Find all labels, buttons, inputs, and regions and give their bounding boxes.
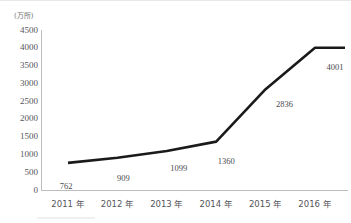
data-value-label: 1360 xyxy=(218,156,235,166)
caption-artifact xyxy=(37,217,95,219)
data-value-label: 909 xyxy=(117,173,130,183)
data-value-label: 4001 xyxy=(327,62,344,72)
chart-figure: (万所) 05001000150020002500300035004000450… xyxy=(0,0,351,223)
series-line xyxy=(68,48,345,163)
data-value-label: 1099 xyxy=(170,163,187,173)
data-value-label: 762 xyxy=(60,181,73,191)
line-chart-plot xyxy=(0,1,351,223)
data-value-label: 2836 xyxy=(276,99,293,109)
